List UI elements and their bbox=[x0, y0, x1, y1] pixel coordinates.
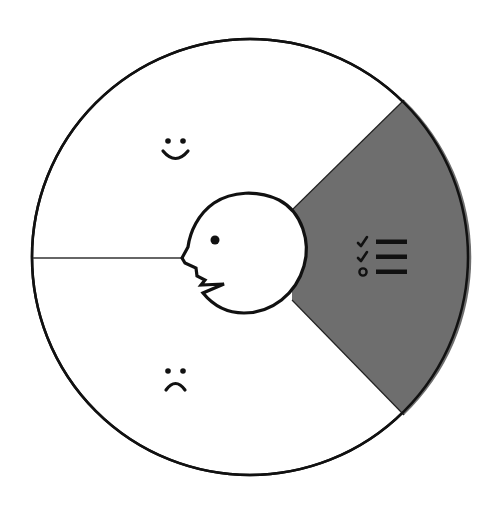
sentiment-wheel-diagram bbox=[0, 0, 497, 508]
diagram-canvas bbox=[0, 0, 497, 508]
profile-eye bbox=[211, 236, 220, 245]
